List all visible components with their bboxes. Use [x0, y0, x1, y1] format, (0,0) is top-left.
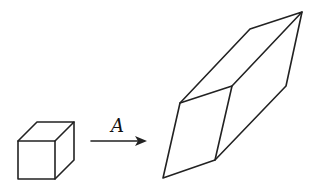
cube-front-face: [18, 141, 55, 179]
arrow-label: A: [109, 115, 124, 136]
transformation-diagram: A: [0, 0, 311, 194]
parallelepiped-right-face: [215, 12, 302, 160]
parallelepiped-front-face: [163, 86, 232, 178]
parallelepiped: [163, 12, 302, 178]
cube-top-face: [18, 122, 74, 141]
transformation-arrow: A: [91, 115, 147, 146]
unit-cube: [18, 122, 74, 179]
